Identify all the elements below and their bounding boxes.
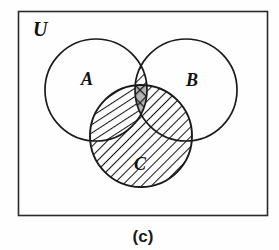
venn-diagram-canvas: U A B C (c) [0,0,279,250]
figure-caption: (c) [133,227,154,246]
venn-diagram-figure: U A B C (c) [0,0,279,250]
set-label-b: B [185,70,198,90]
universe-label: U [33,18,49,40]
set-label-a: A [80,69,93,89]
set-label-c: C [134,154,147,174]
